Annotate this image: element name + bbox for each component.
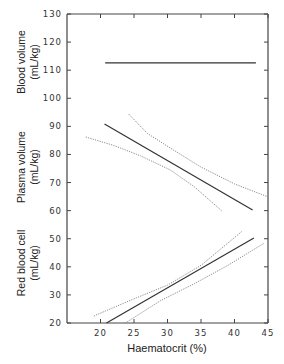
x-tick-label: 45 bbox=[262, 328, 275, 338]
y-tick-label: 100 bbox=[43, 93, 62, 103]
y-tick-label: 50 bbox=[49, 234, 62, 244]
confidence-band-line bbox=[125, 243, 264, 323]
y-label-blood-line2: (mL/kg) bbox=[28, 44, 40, 80]
y-tick-label: 70 bbox=[49, 178, 62, 188]
y-tick-label: 110 bbox=[43, 65, 62, 75]
regression-line bbox=[105, 124, 253, 210]
y-tick-label: 90 bbox=[49, 121, 62, 131]
y-tick-label: 30 bbox=[49, 290, 62, 300]
y-label-rbc-line2: (mL/kg) bbox=[28, 245, 40, 281]
x-axis-title: Haematocrit (%) bbox=[127, 342, 206, 354]
y-tick-label: 60 bbox=[49, 206, 62, 216]
haematocrit-chart: 2030405060708090100110120130 20253035404… bbox=[0, 0, 284, 364]
y-label-plasma-line1: Plasma volume bbox=[15, 131, 27, 203]
regression-line bbox=[107, 238, 254, 323]
y-label-blood-line1: Blood volume bbox=[15, 30, 27, 94]
x-tick-label: 30 bbox=[161, 328, 174, 338]
confidence-band-line bbox=[86, 137, 222, 211]
data-series bbox=[86, 63, 268, 323]
y-tick-label: 130 bbox=[43, 9, 62, 19]
x-tick-label: 35 bbox=[195, 328, 208, 338]
y-label-rbc-line1: Red blood cell bbox=[15, 230, 27, 297]
y-tick-label: 40 bbox=[49, 262, 62, 272]
y-tick-label: 20 bbox=[49, 318, 62, 328]
y-tick-label: 120 bbox=[43, 37, 62, 47]
y-label-plasma-volume: Plasma volume (mL/kg) bbox=[15, 131, 40, 203]
y-tick-label: 80 bbox=[49, 149, 62, 159]
x-tick-label: 25 bbox=[128, 328, 141, 338]
confidence-band-line bbox=[94, 231, 243, 316]
y-label-red-blood-cell: Red blood cell (mL/kg) bbox=[15, 230, 40, 297]
plot-frame bbox=[67, 14, 268, 323]
y-label-blood-volume: Blood volume (mL/kg) bbox=[15, 30, 40, 94]
confidence-band-line bbox=[129, 114, 268, 197]
x-tick-label: 20 bbox=[94, 328, 107, 338]
y-axis-ticks: 2030405060708090100110120130 bbox=[43, 9, 268, 328]
x-tick-label: 40 bbox=[228, 328, 241, 338]
y-label-plasma-line2: (mL/kg) bbox=[28, 149, 40, 185]
